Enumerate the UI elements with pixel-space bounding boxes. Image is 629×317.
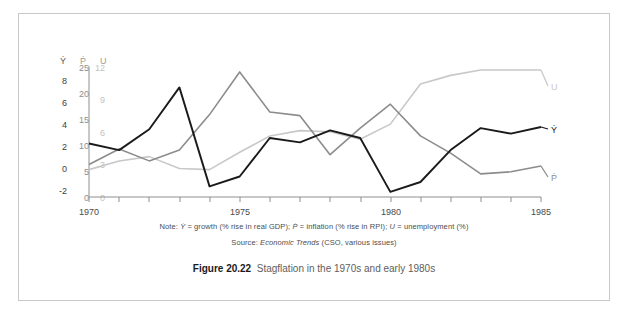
caption-text: Stagflation in the 1970s and early 1980s [257,263,435,274]
y-tick-inflation-10: 10 [79,141,89,151]
figure-caption: Figure 20.22 Stagflation in the 1970s an… [19,263,609,274]
caption-label: Figure 20.22 [193,263,251,274]
chart-plot-area: Ẏ Ṗ U 8 6 4 2 0 -2 25 20 15 10 5 0 12 9 … [19,14,611,302]
leader-line-inflation [541,166,548,177]
note-prefix: Note: [160,222,181,231]
figure-card: Ẏ Ṗ U 8 6 4 2 0 -2 25 20 15 10 5 0 12 9 … [18,13,610,301]
y-tick-inflation-20: 20 [79,89,89,99]
stagflation-line-chart: Ẏ Ṗ U 8 6 4 2 0 -2 25 20 15 10 5 0 12 9 … [19,14,611,302]
y-tick-inflation-5: 5 [84,167,89,177]
figure-note: Note: Ẏ = growth (% rise in real GDP); Ṗ… [19,222,609,231]
leader-line-growth [541,127,548,129]
note-desc-u: = unemployment (%) [395,222,468,231]
y-tick-growth-minus2: -2 [59,186,67,196]
series-line-inflation [89,72,541,174]
y-tick-growth-6: 6 [62,98,67,108]
series-label-growth: Ẏ [551,125,557,135]
x-tick-1970: 1970 [79,207,99,217]
y-tick-unemployment-0: 0 [100,193,105,203]
source-prefix: Source: [231,238,260,247]
note-desc-p: = inflation (% rise in RPI); [298,222,390,231]
x-tick-1975: 1975 [230,207,250,217]
y-tick-growth-8: 8 [62,76,67,86]
y-tick-unemployment-6: 6 [100,128,105,138]
y-tick-inflation-0: 0 [84,193,89,203]
source-publication: Economic Trends [260,238,319,247]
x-tick-1980: 1980 [381,207,401,217]
series-label-inflation: Ṗ [551,173,557,183]
series-line-growth [89,87,541,191]
leader-line-unemployment [541,70,548,86]
y-tick-growth-2: 2 [62,142,67,152]
y-tick-unemployment-9: 9 [100,95,105,105]
y-tick-growth-4: 4 [62,120,67,130]
axis-header-y-growth: Ẏ [60,56,66,66]
y-tick-unemployment-12: 12 [95,63,105,73]
y-tick-inflation-25: 25 [79,63,89,73]
x-axis-ticks [89,197,541,202]
x-tick-1985: 1985 [531,207,551,217]
series-label-unemployment: U [551,82,558,92]
figure-source: Source: Economic Trends (CSO, various is… [19,238,609,247]
y-tick-growth-0: 0 [62,164,67,174]
y-tick-inflation-15: 15 [79,115,89,125]
note-desc-y: = growth (% rise in real GDP); [185,222,292,231]
source-suffix: (CSO, various issues) [319,238,396,247]
